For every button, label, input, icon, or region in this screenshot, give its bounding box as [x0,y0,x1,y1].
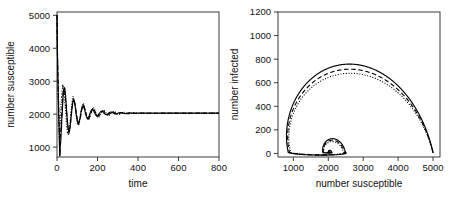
y-tick-label: 0 [266,148,271,159]
series-dashed [57,15,219,155]
series-dotted [57,15,219,157]
y-tick-label: 600 [255,77,271,88]
plot-frame [278,12,440,157]
plot-frame [57,12,219,157]
x-tick-label: 2000 [318,162,339,173]
y-axis-title: number infected [229,49,240,121]
y-tick-label: 200 [255,124,271,135]
y-tick-label: 1200 [250,6,271,17]
series-solid [286,64,433,155]
figure-two-panel-epidemic-plots: 020040060080010002000300040005000timenum… [0,0,456,207]
y-tick-label: 400 [255,101,271,112]
x-axis-title: number susceptible [316,178,403,189]
panel-time-series: 020040060080010002000300040005000timenum… [0,0,228,207]
x-tick-label: 800 [211,162,227,173]
y-tick-label: 4000 [29,43,50,54]
x-tick-label: 3000 [353,162,374,173]
series-dashed [288,69,433,155]
panel-phase-portrait: 1000200030004000500002004006008001000120… [228,0,456,207]
y-tick-label: 2000 [29,109,50,120]
x-axis-title: time [129,178,148,189]
x-tick-label: 0 [54,162,59,173]
y-tick-label: 800 [255,54,271,65]
time-series-plot: 020040060080010002000300040005000timenum… [0,0,228,207]
x-tick-label: 5000 [422,162,443,173]
y-tick-label: 1000 [29,142,50,153]
phase-portrait-plot: 1000200030004000500002004006008001000120… [228,0,456,207]
y-tick-label: 5000 [29,10,50,21]
series-dotted [289,73,433,154]
y-axis-title: number susceptible [5,41,16,128]
x-tick-label: 600 [171,162,187,173]
series-solid [57,15,219,156]
x-tick-label: 1000 [283,162,304,173]
x-tick-label: 4000 [388,162,409,173]
x-tick-label: 200 [90,162,106,173]
y-tick-label: 1000 [250,30,271,41]
y-tick-label: 3000 [29,76,50,87]
x-tick-label: 400 [130,162,146,173]
